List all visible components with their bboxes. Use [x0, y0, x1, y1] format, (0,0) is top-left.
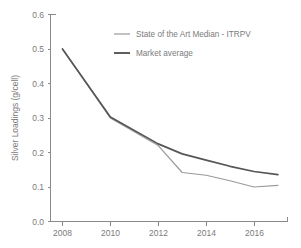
y-tick-label-3: 0.3 [32, 113, 44, 123]
x-tick-label-2016: 2016 [245, 228, 264, 238]
x-tick-label-2012: 2012 [149, 228, 168, 238]
line-chart-canvas: Silver Loadings (g/cell) 0.0 0.1 0.2 0.3… [0, 0, 301, 248]
y-tick-label-4: 0.4 [32, 79, 44, 89]
y-tick-label-1: 0.1 [32, 182, 44, 192]
y-tick-label-6: 0.6 [32, 10, 44, 20]
y-tick-label-2: 0.2 [32, 148, 44, 158]
legend-entry-itrpv: State of the Art Median - ITRPV [114, 30, 251, 39]
x-tick-label-2008: 2008 [53, 228, 72, 238]
series-line-market-average [62, 49, 277, 175]
x-axis-ticks: 2008 2010 2012 2014 2016 [53, 222, 264, 239]
series-line-state-of-the-art-median-itrpv [62, 49, 277, 187]
y-axis-title: Silver Loadings (g/cell) [10, 75, 20, 161]
legend-label-market-average: Market average [136, 49, 193, 58]
legend-entry-market-average: Market average [114, 49, 193, 58]
x-tick-label-2010: 2010 [101, 228, 120, 238]
y-tick-label-0: 0.0 [32, 217, 44, 227]
y-axis-ticks: 0.0 0.1 0.2 0.3 0.4 0.5 0.6 [32, 10, 50, 227]
legend-label-itrpv: State of the Art Median - ITRPV [136, 30, 251, 39]
chart-legend: State of the Art Median - ITRPV Market a… [114, 30, 251, 58]
x-tick-label-2014: 2014 [197, 228, 216, 238]
y-tick-label-5: 0.5 [32, 44, 44, 54]
chart-figure: Silver Loadings (g/cell) 0.0 0.1 0.2 0.3… [0, 0, 301, 248]
